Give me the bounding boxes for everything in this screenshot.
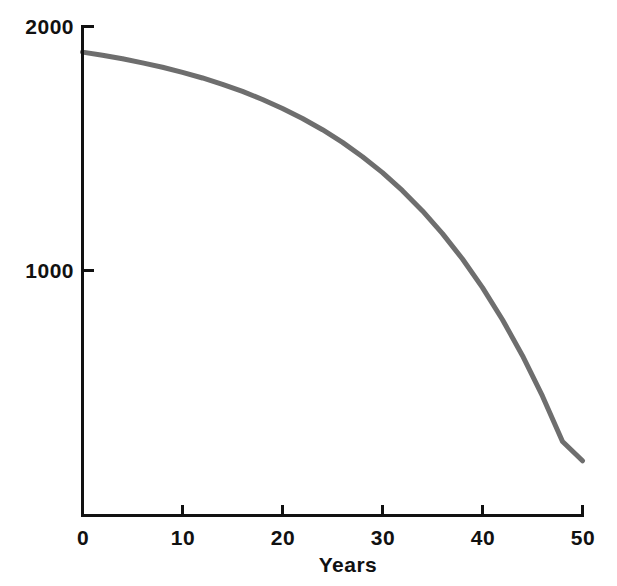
x-tick-label-30: 30 [353, 526, 413, 550]
chart-container: 2000 1000 0 10 20 30 40 50 Years [0, 0, 617, 586]
x-tick-label-40: 40 [453, 526, 513, 550]
data-series-line [83, 52, 583, 461]
y-tick-label-2000: 2000 [8, 15, 74, 39]
y-tick-label-1000: 1000 [8, 259, 74, 283]
x-axis-title: Years [288, 553, 408, 577]
x-tick-label-10: 10 [153, 526, 213, 550]
x-tick-label-50: 50 [553, 526, 613, 550]
x-tick-label-0: 0 [53, 526, 113, 550]
x-tick-label-20: 20 [253, 526, 313, 550]
chart-plot-area [0, 0, 617, 586]
